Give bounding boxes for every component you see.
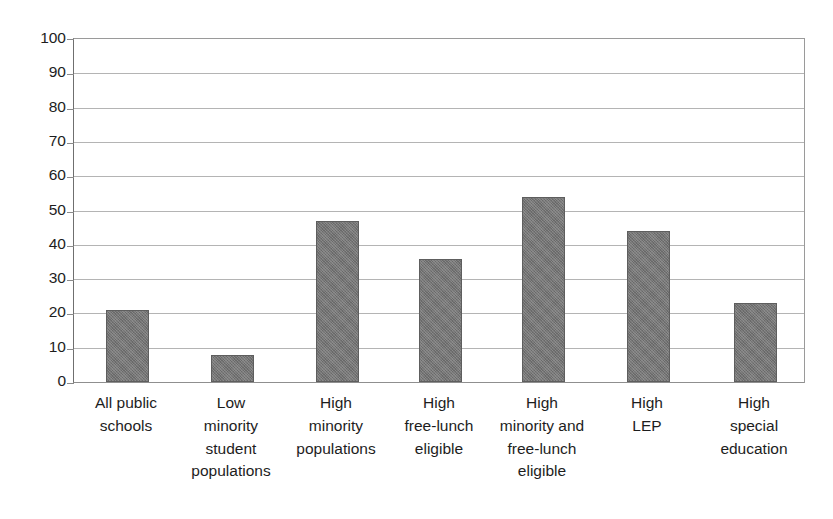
x-label-line: special <box>695 415 813 438</box>
x-label-line: populations <box>277 438 395 461</box>
y-tick-mark <box>67 74 74 75</box>
bar-chart: 100 90 80 70 60 50 40 30 20 10 0 Al <box>0 0 833 519</box>
y-tick-mark <box>67 39 74 40</box>
bar-high-minority-and-free-lunch <box>522 197 565 382</box>
x-label-line: High <box>277 392 395 415</box>
x-tick-label-low-minority-student-populations: Low minority student populations <box>172 392 290 483</box>
x-label-line: minority and <box>483 415 601 438</box>
gridline-50 <box>74 211 804 212</box>
bar-high-lep <box>627 231 670 382</box>
x-label-line: free-lunch <box>380 415 498 438</box>
y-tick-label: 90 <box>20 65 66 81</box>
y-tick-label: 50 <box>20 202 66 218</box>
x-label-line: minority <box>277 415 395 438</box>
y-tick-label: 80 <box>20 99 66 115</box>
y-tick-label: 70 <box>20 133 66 149</box>
gridline-90 <box>74 73 804 74</box>
y-tick-mark <box>67 109 74 110</box>
bar-high-free-lunch-eligible <box>419 259 462 382</box>
y-tick-label: 60 <box>20 167 66 183</box>
y-tick-mark <box>67 212 74 213</box>
x-label-line: High <box>483 392 601 415</box>
y-tick-mark <box>67 280 74 281</box>
x-label-line: minority <box>172 415 290 438</box>
x-label-line: education <box>695 438 813 461</box>
y-tick-mark <box>67 143 74 144</box>
x-tick-label-high-special-education: High special education <box>695 392 813 460</box>
y-tick-mark <box>67 246 74 247</box>
gridline-60 <box>74 176 804 177</box>
x-label-line: LEP <box>588 415 706 438</box>
bar-high-minority-populations <box>316 221 359 382</box>
x-label-line: High <box>588 392 706 415</box>
gridline-40 <box>74 245 804 246</box>
gridline-70 <box>74 142 804 143</box>
x-tick-label-high-minority-and-free-lunch-eligible: High minority and free-lunch eligible <box>483 392 601 483</box>
x-label-line: High <box>380 392 498 415</box>
x-label-line: schools <box>67 415 185 438</box>
plot-area <box>73 38 805 383</box>
x-tick-label-high-lep: High LEP <box>588 392 706 438</box>
x-tick-label-high-minority-populations: High minority populations <box>277 392 395 460</box>
y-tick-mark <box>67 349 74 350</box>
x-tick-label-all-public-schools: All public schools <box>67 392 185 438</box>
x-label-line: populations <box>172 460 290 483</box>
y-tick-mark <box>67 383 74 384</box>
y-tick-label: 100 <box>20 30 66 46</box>
x-label-line: eligible <box>483 460 601 483</box>
y-tick-label: 10 <box>20 339 66 355</box>
x-axis-labels: All public schools Low minority student … <box>73 392 803 512</box>
x-label-line: student <box>172 438 290 461</box>
y-tick-label: 30 <box>20 270 66 286</box>
y-tick-label: 40 <box>20 236 66 252</box>
y-tick-mark <box>67 177 74 178</box>
y-tick-label: 0 <box>20 373 66 389</box>
x-label-line: free-lunch <box>483 438 601 461</box>
y-tick-mark <box>67 314 74 315</box>
bar-high-special-education <box>734 303 777 382</box>
bar-low-minority-student-populations <box>211 355 254 382</box>
x-label-line: eligible <box>380 438 498 461</box>
gridline-0 <box>74 382 804 383</box>
y-axis-labels: 100 90 80 70 60 50 40 30 20 10 0 <box>12 38 66 381</box>
bar-all-public-schools <box>106 310 149 382</box>
x-tick-label-high-free-lunch-eligible: High free-lunch eligible <box>380 392 498 460</box>
x-label-line: High <box>695 392 813 415</box>
gridline-80 <box>74 108 804 109</box>
x-label-line: All public <box>67 392 185 415</box>
y-tick-label: 20 <box>20 305 66 321</box>
x-label-line: Low <box>172 392 290 415</box>
